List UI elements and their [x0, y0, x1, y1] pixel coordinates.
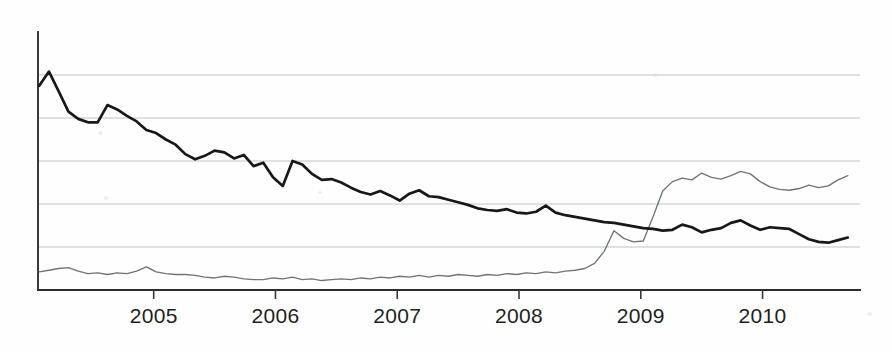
x-tick-label: 2009 — [617, 304, 665, 327]
x-tick-label: 2005 — [130, 304, 178, 327]
x-axis-tick-marks — [154, 290, 763, 299]
x-tick-label: 2010 — [739, 304, 787, 327]
x-tick-label: 2008 — [495, 304, 543, 327]
series-line-primary — [39, 72, 848, 243]
x-tick-label: 2007 — [373, 304, 421, 327]
x-tick-label: 2006 — [252, 304, 300, 327]
line-chart: 200520062007200820092010 — [0, 0, 892, 352]
chart-container: 200520062007200820092010 — [0, 0, 892, 352]
x-axis-tick-labels: 200520062007200820092010 — [130, 304, 787, 327]
